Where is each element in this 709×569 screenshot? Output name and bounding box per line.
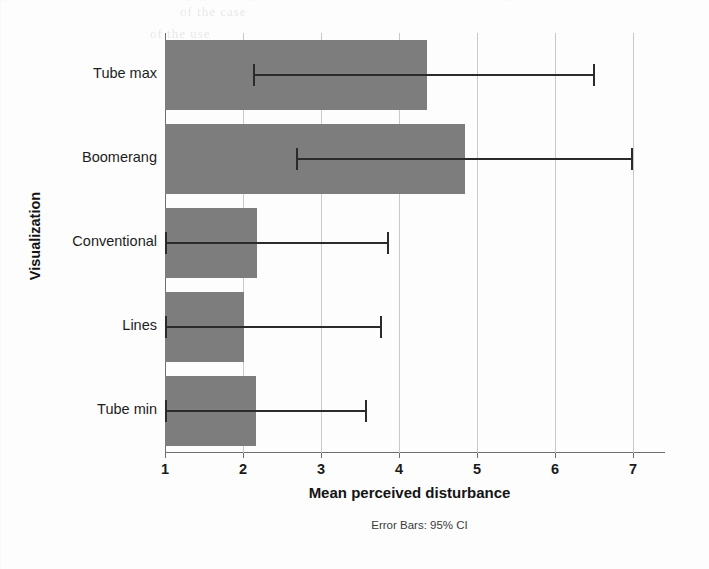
chart-canvas: of the case of the use Visualization Tub… — [0, 0, 709, 569]
gridline-7 — [633, 33, 634, 453]
error-bar-cap-low — [253, 64, 255, 86]
y-tick-label-boomerang: Boomerang — [0, 149, 157, 165]
tick-7 — [633, 453, 634, 458]
error-bar-line — [253, 74, 593, 76]
bar-group — [165, 208, 633, 278]
bar-group — [165, 124, 633, 194]
y-tick-label-lines: Lines — [0, 317, 157, 333]
error-bar-line — [296, 158, 631, 160]
error-bar-cap-high — [387, 232, 389, 254]
error-bar-cap-high — [380, 316, 382, 338]
x-tick-label-6: 6 — [535, 461, 575, 477]
x-tick-label-7: 7 — [613, 461, 653, 477]
tick-2 — [243, 453, 244, 458]
tick-4 — [399, 453, 400, 458]
bar-group — [165, 376, 633, 446]
x-tick-label-5: 5 — [457, 461, 497, 477]
error-bar-line — [165, 326, 380, 328]
bar-group — [165, 292, 633, 362]
error-bar-cap-low — [296, 148, 298, 170]
error-bar-line — [165, 410, 365, 412]
x-axis-title-text: Mean perceived disturbance — [309, 484, 511, 501]
x-axis-line — [165, 452, 665, 453]
error-bar-cap-high — [365, 400, 367, 422]
ghost-text-line-1: of the case — [180, 4, 247, 20]
tick-5 — [477, 453, 478, 458]
y-tick-label-tube-min: Tube min — [0, 401, 157, 417]
x-tick-label-4: 4 — [379, 461, 419, 477]
chart-caption: Error Bars: 95% CI — [0, 519, 709, 531]
y-tick-label-conventional: Conventional — [0, 233, 157, 249]
chart-caption-text: Error Bars: 95% CI — [371, 519, 468, 531]
error-bar-cap-low — [165, 316, 167, 338]
x-tick-label-1: 1 — [145, 461, 185, 477]
tick-6 — [555, 453, 556, 458]
y-tick-label-tube-max: Tube max — [0, 65, 157, 81]
error-bar-cap-low — [165, 232, 167, 254]
bar-group — [165, 40, 633, 110]
x-axis-title: Mean perceived disturbance — [0, 484, 709, 501]
error-bar-line — [165, 242, 387, 244]
plot-area — [165, 33, 633, 453]
tick-3 — [321, 453, 322, 458]
error-bar-cap-low — [165, 400, 167, 422]
tick-1 — [165, 453, 166, 458]
error-bar-cap-high — [631, 148, 633, 170]
x-tick-label-3: 3 — [301, 461, 341, 477]
x-tick-label-2: 2 — [223, 461, 263, 477]
error-bar-cap-high — [593, 64, 595, 86]
